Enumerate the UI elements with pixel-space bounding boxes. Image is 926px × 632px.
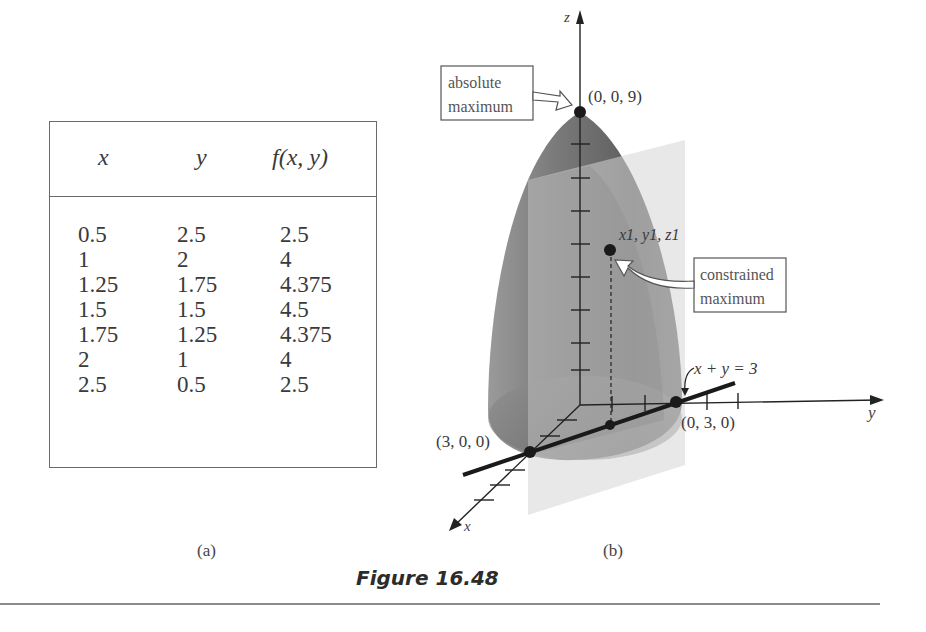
paraboloid-diagram: z y x (0, 0, 9) x1, y1, z1 (3, 0, 0) (0,…	[0, 0, 926, 632]
svg-text:maximum: maximum	[448, 98, 513, 115]
constrained-max-point	[604, 244, 616, 256]
y-axis-label: y	[866, 403, 876, 422]
line-midpoint	[605, 420, 615, 430]
absolute-max-callout: absolute maximum	[441, 66, 572, 120]
z-axis-label: z	[563, 9, 570, 25]
x-intercept-point	[524, 446, 536, 458]
svg-text:maximum: maximum	[700, 290, 765, 307]
x-axis-label: x	[463, 518, 471, 534]
absolute-max-label: (0, 0, 9)	[588, 87, 642, 106]
constrained-max-label: x1, y1, z1	[618, 226, 679, 244]
absolute-max-point	[574, 106, 586, 118]
constraint-label: x + y = 3	[693, 359, 758, 378]
x-intercept-label: (3, 0, 0)	[436, 432, 490, 451]
y-intercept-label: (0, 3, 0)	[681, 413, 735, 432]
z-arrow-icon	[576, 10, 584, 24]
svg-text:constrained: constrained	[700, 266, 774, 283]
svg-text:absolute: absolute	[448, 74, 501, 91]
y-intercept-point	[670, 396, 682, 408]
